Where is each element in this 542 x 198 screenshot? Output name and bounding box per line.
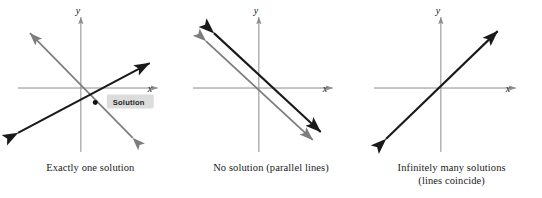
solution-point: [93, 100, 98, 105]
y-axis-label: y: [75, 5, 81, 16]
line-dark-upper: [214, 33, 321, 132]
panel-exactly-one-solution: x y Solution Exactly one solution: [0, 0, 181, 198]
caption-line: Exactly one solution: [0, 162, 181, 175]
caption-no-solution: No solution (parallel lines): [181, 162, 362, 175]
line-coincident: [386, 31, 498, 139]
panel-infinitely-many-solutions: x y Infinitely many solutions (lines coi…: [361, 0, 542, 198]
x-axis-label: x: [147, 83, 153, 94]
caption-line: Infinitely many solutions: [361, 162, 542, 175]
y-axis-label: y: [435, 5, 441, 16]
systems-of-equations-figure: x y Solution Exactly one solution: [0, 0, 542, 198]
caption-line: No solution (parallel lines): [181, 162, 362, 175]
x-axis-label: x: [321, 83, 327, 94]
caption-exactly-one-solution: Exactly one solution: [0, 162, 181, 175]
x-axis-label: x: [505, 83, 511, 94]
caption-line: (lines coincide): [361, 175, 542, 188]
panel-no-solution: x y No solution (parallel lines): [181, 0, 362, 198]
y-axis-label: y: [253, 5, 259, 16]
caption-infinitely-many-solutions: Infinitely many solutions (lines coincid…: [361, 162, 542, 187]
solution-label-text: Solution: [113, 98, 145, 107]
line-gray-lower: [206, 41, 313, 140]
